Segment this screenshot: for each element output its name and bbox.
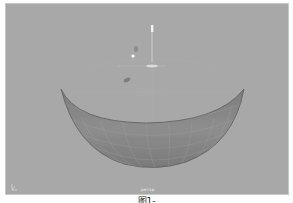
hemisphere-object[interactable] — [61, 89, 244, 170]
xyz-axis-icon — [12, 184, 17, 190]
scene-canvas[interactable] — [6, 4, 289, 195]
figure-caption: 图1- — [0, 196, 293, 203]
camera-name-label: persp — [141, 187, 155, 192]
3d-viewport[interactable]: persp — [5, 3, 289, 195]
move-manipulator-icon[interactable] — [118, 25, 166, 83]
